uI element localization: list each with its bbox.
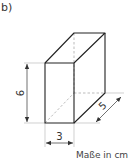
hidden-edges (45, 33, 105, 123)
cuboid-diagram: 6 3 5 (0, 0, 134, 167)
top-face (45, 33, 105, 63)
visible-edges (45, 33, 105, 123)
width-label: 3 (56, 131, 62, 142)
units-caption: Maße in cm (76, 150, 128, 160)
depth-label: 5 (97, 100, 109, 112)
height-label: 6 (15, 90, 26, 96)
right-face-edges (74, 33, 105, 123)
front-face (45, 63, 74, 123)
